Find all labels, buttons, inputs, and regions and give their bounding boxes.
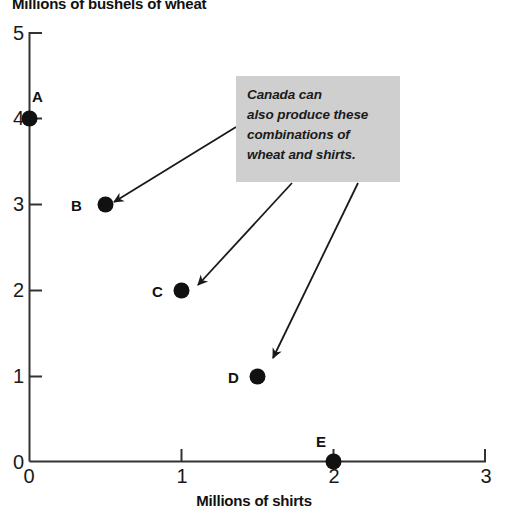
x-tick-label-0: 0 bbox=[14, 466, 44, 486]
point-label-c: C bbox=[152, 284, 163, 299]
annotation-callout: Canada can also produce these combinatio… bbox=[236, 76, 400, 182]
chart-canvas: Millions of bushels of wheat bbox=[0, 0, 508, 524]
x-tick-label-2: 2 bbox=[319, 466, 349, 486]
y-tick-label-3: 3 bbox=[2, 194, 24, 214]
callout-arrow-to-c bbox=[198, 183, 292, 285]
callout-arrow-to-d bbox=[273, 183, 358, 358]
x-tick-label-1: 1 bbox=[167, 466, 197, 486]
point-label-e: E bbox=[316, 434, 326, 449]
data-point-d bbox=[250, 369, 266, 385]
x-tick-label-3: 3 bbox=[471, 466, 501, 486]
x-axis-title: Millions of shirts bbox=[0, 492, 508, 509]
data-point-c bbox=[174, 283, 190, 299]
point-label-b: B bbox=[71, 198, 82, 213]
callout-arrow-to-b bbox=[114, 127, 236, 202]
annotation-callout-text: Canada can also produce these combinatio… bbox=[247, 85, 400, 165]
y-tick-label-1: 1 bbox=[2, 366, 24, 386]
y-tick-label-4: 4 bbox=[2, 108, 24, 128]
point-label-d: D bbox=[228, 370, 239, 385]
y-tick-label-5: 5 bbox=[2, 23, 24, 43]
point-label-a: A bbox=[32, 89, 43, 104]
y-tick-label-2: 2 bbox=[2, 280, 24, 300]
data-point-b bbox=[98, 197, 114, 213]
